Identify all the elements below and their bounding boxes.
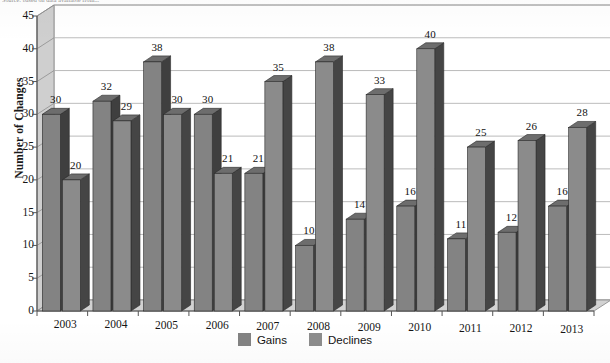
legend-label-declines: Declines [328,334,372,346]
x-axis-tick-label: 2010 [408,321,431,333]
x-axis-tick-label: 2011 [459,322,482,334]
bar-value-label: 29 [121,100,132,112]
x-axis-tick-label: 2005 [155,319,178,331]
legend-item-declines: Declines [309,333,372,346]
x-axis-tick-label: 2009 [358,321,381,333]
legend-label-gains: Gains [257,334,287,346]
bar-value-label: 40 [425,28,436,40]
legend-swatch-declines [309,333,322,346]
bar-chart: Number of Changes 051015202530354045 200… [0,0,610,363]
legend-swatch-gains [238,333,251,346]
bar-value-label: 32 [101,80,112,92]
bar-value-label: 20 [70,159,81,171]
bar-value-label: 16 [556,185,567,197]
bar-value-label: 33 [374,74,385,86]
plot-area [0,0,610,363]
bar-value-label: 21 [222,152,233,164]
bar-value-label: 30 [171,93,182,105]
bar-value-label: 12 [506,211,517,223]
bar-value-label: 26 [526,120,537,132]
bar-value-label: 30 [202,93,213,105]
bar-value-label: 25 [475,126,486,138]
bar-value-label: 10 [303,224,314,236]
bar-value-label: 30 [50,93,61,105]
chart-legend: Gains Declines [0,333,610,346]
bar-value-label: 14 [354,198,365,210]
bar-value-label: 28 [576,106,587,118]
bar-value-label: 21 [253,152,264,164]
legend-item-gains: Gains [238,333,287,346]
bar-value-label: 38 [323,41,334,53]
x-axis-tick-label: 2006 [206,319,229,331]
x-axis-tick-label: 2008 [307,320,330,332]
bar-value-label: 38 [151,41,162,53]
bar-value-label: 35 [273,61,284,73]
x-axis-tick-label: 2003 [54,318,77,330]
bar-value-label: 16 [405,185,416,197]
bar-value-label: 11 [455,218,466,230]
x-axis-tick-label: 2007 [256,320,279,332]
x-axis-tick-label: 2004 [104,318,127,330]
